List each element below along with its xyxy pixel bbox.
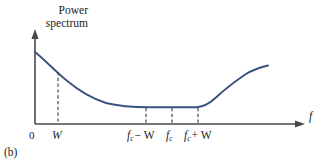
fc-subscript: c	[169, 134, 172, 143]
y-axis-label: Power spectrum	[0, 4, 88, 30]
dashed-guides	[58, 72, 198, 124]
fc-plus-w-subscript: c	[187, 134, 190, 143]
fc-minus-w-operand: − W	[134, 129, 156, 141]
x-axis-label: f	[309, 110, 312, 123]
x-axis	[35, 120, 305, 127]
x-tick-label-fc: fc	[166, 129, 173, 142]
fc-plus-w-operand: + W	[191, 129, 213, 141]
y-axis	[31, 29, 38, 124]
y-axis-label-line2: spectrum	[0, 17, 88, 30]
x-tick-label-fc-plus-w: fc+ W	[184, 129, 213, 142]
fc-minus-w-subscript: c	[130, 134, 133, 143]
figure-caption: (b)	[4, 146, 17, 159]
x-tick-label-fc-minus-w: fc− W	[127, 129, 156, 142]
x-tick-label-zero: 0	[29, 129, 35, 141]
power-spectrum-curve	[35, 52, 268, 107]
power-spectrum-figure: Power spectrum f 0 W fc− W fc fc+ W (b)	[0, 0, 325, 166]
x-tick-label-w: W	[52, 129, 62, 142]
y-axis-label-line1: Power	[0, 4, 88, 17]
